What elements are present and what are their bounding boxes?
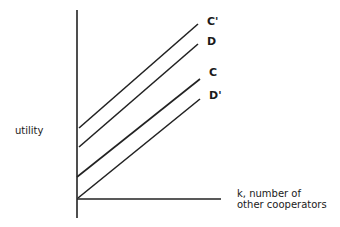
x-axis-label: k, number of other cooperators — [237, 188, 327, 210]
x-axis-label-line2: other cooperators — [237, 199, 327, 210]
x-axis-label-line1: k, number of — [237, 188, 327, 199]
y-axis-label: utility — [15, 125, 43, 136]
curve-label-c: C — [209, 66, 217, 79]
curve-c-prime — [79, 24, 198, 128]
curve-c — [77, 79, 200, 177]
curve-label-d-prime: D' — [209, 89, 222, 102]
curve-label-d: D — [207, 35, 216, 48]
curve-label-c-prime: C' — [207, 15, 218, 28]
